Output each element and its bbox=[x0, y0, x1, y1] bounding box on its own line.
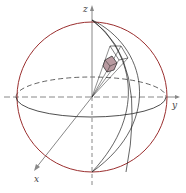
y-arrow-icon bbox=[175, 95, 180, 99]
meridian-inner bbox=[92, 20, 128, 172]
y-label: y bbox=[171, 100, 178, 110]
meridian-outer bbox=[92, 20, 140, 172]
meridian-1 bbox=[92, 20, 132, 172]
x-axis bbox=[36, 97, 92, 168]
x-arrow-icon bbox=[34, 164, 40, 171]
z-arrow-icon bbox=[90, 5, 94, 11]
z-label: z bbox=[82, 4, 88, 14]
equator-front bbox=[16, 97, 166, 117]
sphere-diagram: z y x bbox=[0, 0, 186, 193]
equator-back bbox=[16, 77, 166, 97]
x-label: x bbox=[34, 174, 39, 184]
diagram-canvas: z y x bbox=[0, 0, 186, 193]
